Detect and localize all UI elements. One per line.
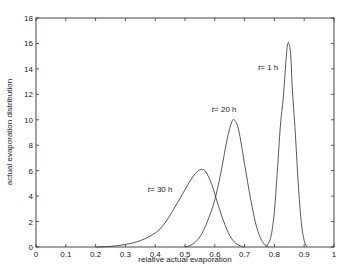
y-axis-label: actual evaporation distribution — [5, 79, 14, 185]
y-tick-label: 4 — [29, 192, 34, 201]
y-tick-label: 18 — [24, 14, 33, 23]
y-tick-label: 12 — [24, 90, 33, 99]
annotation-t-30-h: t= 30 h — [148, 185, 173, 194]
x-tick-label: 0.9 — [299, 250, 311, 259]
chart-background — [0, 0, 351, 270]
y-tick-label: 16 — [24, 39, 33, 48]
x-tick-label: 0.8 — [269, 250, 281, 259]
x-tick-label: 0.1 — [60, 250, 72, 259]
y-tick-label: 8 — [29, 141, 34, 150]
y-tick-label: 6 — [29, 167, 34, 176]
evaporation-distribution-chart: 00.10.20.30.40.50.60.70.80.91 0246810121… — [0, 0, 351, 270]
y-tick-label: 0 — [29, 243, 34, 252]
x-tick-label: 0.7 — [239, 250, 251, 259]
y-tick-label: 10 — [24, 116, 33, 125]
annotation-t-20-h: t= 20 h — [212, 105, 237, 114]
x-tick-label: 0.3 — [120, 250, 132, 259]
x-tick-label: 0.2 — [90, 250, 102, 259]
x-axis-label: relative actual evaporation — [138, 255, 231, 264]
x-tick-label: 1 — [332, 250, 337, 259]
x-tick-label: 0 — [34, 250, 39, 259]
y-tick-label: 14 — [24, 65, 33, 74]
y-tick-label: 2 — [29, 218, 34, 227]
annotation-t-1-h: t= 1 h — [258, 63, 278, 72]
